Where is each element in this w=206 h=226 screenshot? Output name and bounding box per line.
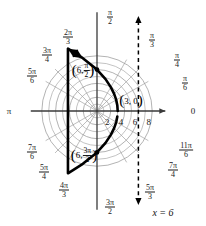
polar-axis-arrow <box>159 108 165 113</box>
angle-label-120deg: 2π3 <box>63 29 73 46</box>
annotation-radius: 6, <box>77 65 84 75</box>
fraction-numerator: π <box>182 75 188 83</box>
fraction-denominator: 6 <box>182 83 188 92</box>
fraction-numerator: 3π <box>42 47 52 55</box>
fraction-denominator: 3 <box>59 190 69 199</box>
angle-label-240deg: 4π3 <box>59 182 69 199</box>
angle-label-0deg: 0 <box>191 107 196 116</box>
radial-tick-4: 4 <box>119 117 124 127</box>
annotation-lower-latus-point: (6,3π2) <box>71 147 97 163</box>
fraction-denominator: 6 <box>27 76 37 85</box>
fraction: π6 <box>182 75 188 92</box>
directrix-arrow-top <box>135 16 141 23</box>
fraction: 3π2 <box>83 147 93 163</box>
close-paren: ) <box>89 63 94 78</box>
fraction: π2 <box>107 9 113 26</box>
angle-label-90deg: π2 <box>107 9 113 26</box>
fraction-numerator: π <box>174 52 180 60</box>
angle-label-330deg: 11π6 <box>179 142 193 159</box>
annotation-text: 3, 0 <box>124 95 138 105</box>
fraction-denominator: 4 <box>168 170 178 179</box>
fraction: 5π6 <box>27 68 37 85</box>
polar-plot-canvas <box>0 0 206 226</box>
fraction-numerator: 3π <box>105 199 115 207</box>
fraction: 3π2 <box>105 199 115 216</box>
angle-label-270deg: 3π2 <box>105 199 115 216</box>
fraction: 7π4 <box>168 162 178 179</box>
angle-label-300deg: 5π3 <box>145 184 155 201</box>
fraction-numerator: 5π <box>39 164 49 172</box>
fraction-numerator: 7π <box>27 144 37 152</box>
angle-label-135deg: 3π4 <box>42 47 52 64</box>
fraction-denominator: 2 <box>83 155 93 164</box>
fraction: 4π3 <box>59 182 69 199</box>
annotation-vertex-point: (3, 0) <box>119 93 143 108</box>
angle-label-150deg: 5π6 <box>27 68 37 85</box>
fraction-numerator: π <box>149 32 155 40</box>
fraction-denominator: 2 <box>107 17 113 26</box>
curve-marker-dot <box>95 67 100 72</box>
fraction: 2π3 <box>63 29 73 46</box>
fraction: 11π6 <box>179 142 193 159</box>
fraction-denominator: 6 <box>179 150 193 159</box>
fraction-numerator: 2π <box>63 29 73 37</box>
fraction-denominator: 4 <box>42 55 52 64</box>
radial-tick-6: 6 <box>133 117 138 127</box>
fraction-denominator: 3 <box>63 37 73 46</box>
fraction: 3π4 <box>42 47 52 64</box>
directrix-equation-label: x = 6 <box>152 207 173 218</box>
fraction: 5π3 <box>145 184 155 201</box>
close-paren: ) <box>92 148 97 163</box>
angle-label-180deg: π <box>7 107 12 116</box>
directrix-arrow-bottom <box>135 198 141 205</box>
fraction-numerator: 5π <box>27 68 37 76</box>
close-paren: ) <box>138 93 143 108</box>
fraction: π3 <box>149 32 155 49</box>
grid-spoke <box>46 81 97 111</box>
fraction-numerator: π <box>107 9 113 17</box>
fraction-numerator: 5π <box>145 184 155 192</box>
angle-label-30deg: π6 <box>182 75 188 92</box>
fraction-numerator: 11π <box>179 142 193 150</box>
angle-label-45deg: π4 <box>174 52 180 69</box>
annotation-radius: 6, <box>76 150 83 160</box>
annotation-upper-latus-point: (6,π2) <box>72 62 95 78</box>
polar-graph-figure: 0π6π4π3π22π33π45π6π7π65π44π33π25π37π411π… <box>0 0 206 226</box>
radial-tick-8: 8 <box>146 117 151 127</box>
angle-label-315deg: 7π4 <box>168 162 178 179</box>
fraction-denominator: 4 <box>39 172 49 181</box>
fraction-numerator: 3π <box>83 147 93 155</box>
fraction-denominator: 2 <box>105 207 115 216</box>
fraction: 5π4 <box>39 164 49 181</box>
fraction-denominator: 4 <box>174 60 180 69</box>
angle-label-60deg: π3 <box>149 32 155 49</box>
fraction-numerator: 7π <box>168 162 178 170</box>
angle-label-210deg: 7π6 <box>27 144 37 161</box>
fraction: π4 <box>174 52 180 69</box>
fraction-numerator: 4π <box>59 182 69 190</box>
fraction-denominator: 6 <box>27 152 37 161</box>
fraction: 7π6 <box>27 144 37 161</box>
fraction-denominator: 3 <box>149 40 155 49</box>
fraction-denominator: 3 <box>145 192 155 201</box>
radial-tick-2: 2 <box>105 117 110 127</box>
angle-label-225deg: 5π4 <box>39 164 49 181</box>
grid-spoke <box>46 111 97 141</box>
